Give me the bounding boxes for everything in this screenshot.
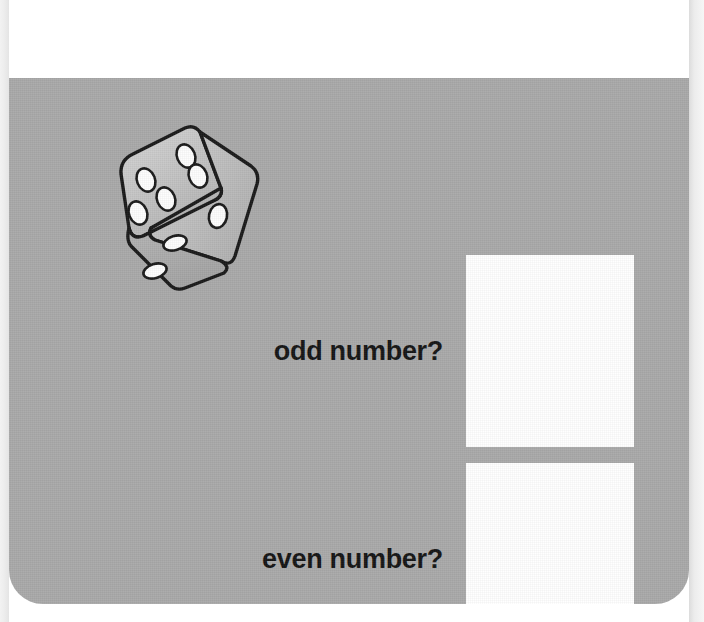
question-label-odd: odd number?	[18, 338, 466, 365]
worksheet-panel: odd number? even number?	[9, 78, 689, 604]
question-row-odd: odd number?	[18, 255, 634, 447]
answer-box-even[interactable]	[466, 463, 634, 622]
page-edge-left	[0, 0, 9, 622]
page-edge-right	[689, 0, 704, 622]
answer-box-odd[interactable]	[466, 255, 634, 447]
worksheet-page: odd number? even number?	[0, 0, 704, 622]
question-row-even: even number?	[18, 463, 634, 622]
question-label-even: even number?	[18, 546, 466, 573]
